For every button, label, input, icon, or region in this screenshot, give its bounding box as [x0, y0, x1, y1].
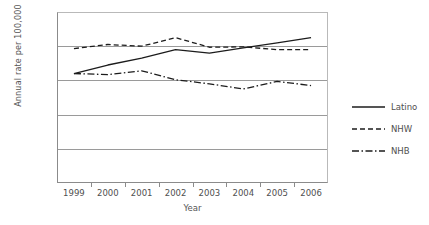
y-axis-title: Annual rate per 100,000 — [14, 0, 23, 136]
legend-label-nhw: NHW — [391, 124, 412, 134]
x-tick-mark-6 — [260, 183, 261, 187]
series-line-nhb — [74, 71, 311, 89]
chart-legend: LatinoNHWNHB — [352, 96, 429, 162]
x-tick-label-2006: 2006 — [289, 188, 333, 198]
x-tick-mark-7 — [294, 183, 295, 187]
x-tick-mark-3 — [159, 183, 160, 187]
legend-swatch-latino-icon — [352, 102, 385, 112]
x-axis-title: Year — [57, 203, 328, 213]
x-tick-mark-1 — [91, 183, 92, 187]
legend-swatch-nhb-icon — [352, 146, 385, 156]
line-chart-figure: Annual rate per 100,000 01020304050 1999… — [0, 0, 429, 225]
x-tick-mark-2 — [125, 183, 126, 187]
plot-area — [57, 12, 328, 183]
legend-label-latino: Latino — [391, 102, 417, 112]
legend-swatch-nhw-icon — [352, 124, 385, 134]
x-tick-mark-5 — [226, 183, 227, 187]
legend-label-nhb: NHB — [391, 146, 410, 156]
legend-item-nhw[interactable]: NHW — [352, 118, 429, 140]
legend-item-latino[interactable]: Latino — [352, 96, 429, 118]
legend-item-nhb[interactable]: NHB — [352, 140, 429, 162]
x-tick-mark-4 — [193, 183, 194, 187]
series-layer — [57, 12, 328, 183]
